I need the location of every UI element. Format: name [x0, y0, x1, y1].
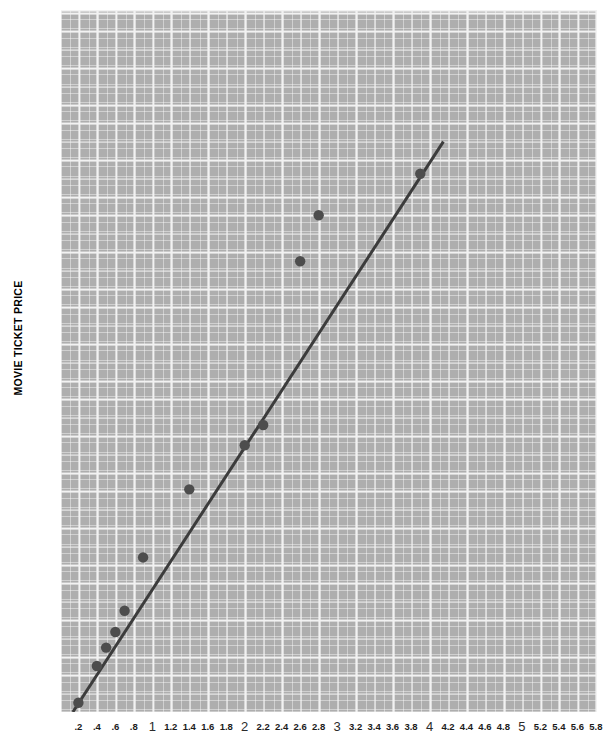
data-point	[119, 606, 129, 616]
x-tick-label: 3.4	[367, 721, 380, 732]
x-tick-label: 2.2	[257, 721, 270, 732]
x-tick-label: .8	[130, 721, 138, 732]
data-layer	[61, 10, 597, 712]
x-tick-label: 5.4	[552, 721, 565, 732]
data-point	[313, 210, 323, 220]
x-tick-label: 1	[149, 719, 156, 734]
x-tick-label: 5	[518, 719, 525, 734]
x-tick-label: 1.4	[183, 721, 196, 732]
plot-area	[61, 10, 597, 712]
data-point	[73, 698, 83, 708]
x-tick-label: 5.2	[534, 721, 547, 732]
x-tick-label: .6	[111, 721, 119, 732]
data-point	[138, 552, 148, 562]
x-tick-label: 4.2	[441, 721, 454, 732]
data-point	[110, 627, 120, 637]
x-tick-label: 1.6	[201, 721, 214, 732]
x-tick-label: .4	[93, 721, 101, 732]
data-point	[240, 440, 250, 450]
scatter-chart: MOVIE TICKET PRICE .20.40.60.8011.201.40…	[0, 0, 606, 748]
y-axis-title: MOVIE TICKET PRICE	[12, 228, 24, 448]
x-tick-label: 5.6	[571, 721, 584, 732]
x-tick-label: 5.8	[589, 721, 602, 732]
x-tick-label: 1.8	[220, 721, 233, 732]
x-tick-label: 3.2	[349, 721, 362, 732]
data-point	[415, 169, 425, 179]
data-point	[184, 484, 194, 494]
x-tick-label: 2	[241, 719, 248, 734]
trend-line	[73, 142, 444, 712]
data-point	[295, 256, 305, 266]
x-tick-label: 3.6	[386, 721, 399, 732]
x-tick-label: 2.8	[312, 721, 325, 732]
x-tick-label: 4.4	[460, 721, 473, 732]
data-point	[101, 642, 111, 652]
x-tick-label: 2.6	[294, 721, 307, 732]
x-tick-label: 3	[333, 719, 340, 734]
x-tick-label: .2	[74, 721, 82, 732]
x-tick-label: 4.6	[478, 721, 491, 732]
data-point	[92, 661, 102, 671]
x-tick-label: 4	[426, 719, 433, 734]
x-tick-label: 1.2	[164, 721, 177, 732]
x-tick-label: 3.8	[404, 721, 417, 732]
x-tick-label: 2.4	[275, 721, 288, 732]
data-point	[258, 420, 268, 430]
x-tick-label: 4.8	[497, 721, 510, 732]
